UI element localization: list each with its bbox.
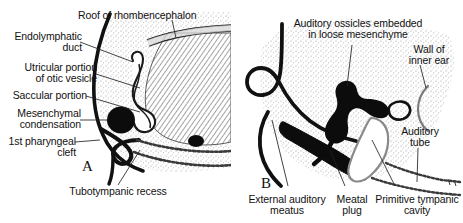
panel-letter-b: B <box>261 176 271 191</box>
label-meatal-plug-line2: plug <box>328 205 376 217</box>
rhombencephalon-hatched-region <box>145 33 231 145</box>
label-mesenchymal-condensation-line2: condensation <box>0 119 81 131</box>
label-tubotympanic-recess: Tubotympanic recess <box>42 186 194 198</box>
label-auditory-tube-line2: tube <box>392 137 448 149</box>
lower-surface-contour-a <box>109 158 113 184</box>
leader-auditory-tube <box>417 148 418 182</box>
ear-development-figure: Roof of rhombencephalon Endolymphatic du… <box>0 0 463 223</box>
label-first-pharyngeal-cleft-line2: cleft <box>0 147 76 159</box>
label-wall-of-inner-ear-line2: inner ear <box>398 55 460 67</box>
label-auditory-ossicles-line2: in loose mesenchyme <box>288 29 428 41</box>
label-primitive-tympanic-cavity-line2: cavity <box>371 205 463 217</box>
ossicle-primordium-a <box>188 135 204 147</box>
label-utricular-portion-line2: of otic vesicle <box>0 73 97 85</box>
label-roof-of-rhombencephalon: Roof of rhombencephalon <box>78 10 228 22</box>
mesenchymal-condensation-shape <box>107 107 135 134</box>
label-endolymphatic-duct-line2: duct <box>0 42 82 54</box>
leader-first-pharyngeal-cleft <box>75 140 100 142</box>
panel-a-illustration <box>75 12 231 185</box>
label-saccular-portion: Saccular portion <box>0 90 87 102</box>
label-external-auditory-meatus-line2: meatus <box>232 205 342 217</box>
panel-letter-a: A <box>82 159 93 174</box>
